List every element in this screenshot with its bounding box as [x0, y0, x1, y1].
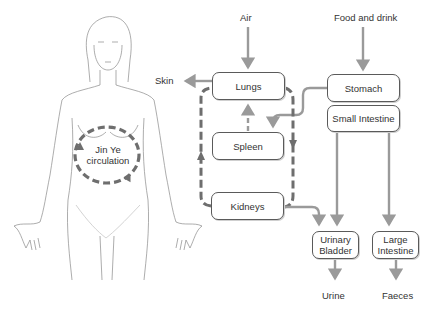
label-skin: Skin — [155, 75, 173, 86]
box-large-intestine: Large Intestine — [372, 231, 419, 259]
loop-lungs-to-kidneys — [285, 88, 293, 207]
label-food-and-drink: Food and drink — [334, 12, 397, 23]
label-air: Air — [240, 12, 252, 23]
box-kidneys-label: Kidneys — [231, 201, 265, 212]
label-faeces: Faeces — [382, 290, 413, 301]
box-large-intestine-label-2: Intestine — [378, 245, 414, 256]
label-circulation: circulation — [86, 155, 130, 166]
box-urinary-bladder: Urinary Bladder — [312, 231, 359, 259]
box-urinary-bladder-label-2: Bladder — [319, 245, 352, 256]
box-stomach: Stomach — [327, 74, 400, 102]
diagram-canvas: Air Food and drink Skin Urine Faeces Jin… — [0, 0, 434, 309]
box-lungs-label: Lungs — [236, 81, 262, 92]
box-large-intestine-label-1: Large — [383, 234, 407, 245]
label-jin-ye-circulation: Jin Ye circulation — [86, 144, 130, 166]
box-stomach-label: Stomach — [345, 83, 383, 94]
label-urine: Urine — [322, 290, 345, 301]
box-spleen-label: Spleen — [233, 141, 263, 152]
box-small-intestine: Small Intestine — [327, 105, 400, 132]
box-lungs: Lungs — [212, 72, 285, 100]
box-kidneys: Kidneys — [211, 192, 284, 220]
label-jin-ye: Jin Ye — [86, 144, 130, 155]
loop-kidneys-to-lungs — [201, 88, 211, 206]
box-small-intestine-label: Small Intestine — [332, 113, 394, 124]
box-urinary-bladder-label-1: Urinary — [320, 234, 351, 245]
arrow-kidneys-to-bladder — [283, 207, 319, 224]
box-spleen: Spleen — [212, 132, 284, 160]
